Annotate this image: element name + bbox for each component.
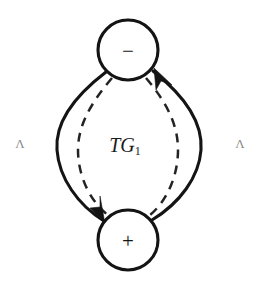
side-label-right: Λ <box>235 136 245 151</box>
edge-right-dashed <box>146 78 178 218</box>
node-plus-label: + <box>122 229 134 253</box>
center-label-main-text: TG <box>109 134 135 156</box>
center-label-subscript: 1 <box>135 144 141 158</box>
center-label: TG1 <box>109 134 141 158</box>
node-minus-label: − <box>122 39 134 63</box>
figure-root: − + TG1 Λ Λ <box>0 0 262 287</box>
diagram-canvas: − + TG1 Λ Λ <box>0 0 262 287</box>
side-label-left: Λ <box>15 136 25 151</box>
arrowhead-down-left <box>90 196 105 224</box>
edge-left-dashed <box>78 78 112 218</box>
